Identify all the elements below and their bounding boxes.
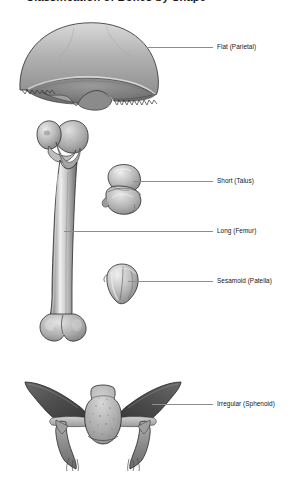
leader-line-talus	[133, 181, 213, 182]
label-flat-parietal: Flat (Parietal)	[217, 44, 256, 50]
bone-classification-figure: Classification of Bones by Shape	[0, 0, 298, 484]
parietal-bone-illustration	[14, 16, 166, 112]
label-short-talus: Short (Talus)	[217, 178, 254, 184]
label-long-femur: Long (Femur)	[217, 228, 256, 234]
label-irregular-sphenoid: Irregular (Sphenoid)	[217, 401, 275, 407]
sphenoid-bone-illustration	[22, 372, 184, 472]
leader-line-femur	[64, 231, 213, 232]
figure-title: Classification of Bones by Shape	[26, 0, 256, 3]
talus-bone-illustration	[98, 162, 148, 218]
label-sesamoid-patella: Sesamoid (Patella)	[217, 278, 272, 284]
leader-line-patella	[128, 281, 213, 282]
patella-bone-illustration	[98, 262, 144, 308]
leader-line-parietal	[147, 47, 213, 48]
leader-line-sphenoid	[152, 404, 213, 405]
